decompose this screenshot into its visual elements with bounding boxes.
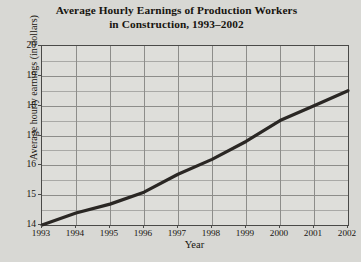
chart-title-line-1: Average Hourly Earnings of Production Wo…: [0, 4, 353, 18]
y-tick-mark: [38, 45, 41, 46]
y-tick-label: 16: [10, 159, 36, 169]
x-tick-mark: [177, 225, 178, 228]
x-tick-mark: [143, 225, 144, 228]
y-tick-label: 18: [10, 100, 36, 110]
x-tick-mark: [245, 225, 246, 228]
x-tick-mark: [313, 225, 314, 228]
y-axis-label: Average hourly earnings (in dollars): [28, 0, 39, 183]
x-tick-mark: [75, 225, 76, 228]
y-tick-label: 19: [10, 70, 36, 80]
data-series-line: [42, 46, 348, 225]
y-tick-mark: [38, 135, 41, 136]
x-tick-mark: [41, 225, 42, 228]
x-tick-mark: [211, 225, 212, 228]
y-tick-label: 17: [10, 130, 36, 140]
x-tick-mark: [347, 225, 348, 228]
y-tick-label: 20: [10, 40, 36, 50]
y-tick-mark: [38, 75, 41, 76]
y-tick-label: 15: [10, 189, 36, 199]
y-tick-mark: [38, 105, 41, 106]
plot-area: [41, 45, 349, 226]
x-tick-label: 2002: [327, 228, 361, 238]
series-polyline: [42, 91, 348, 225]
x-axis-label: Year: [36, 239, 353, 250]
x-tick-mark: [279, 225, 280, 228]
chart-title: Average Hourly Earnings of Production Wo…: [0, 4, 353, 31]
x-tick-mark: [109, 225, 110, 228]
chart-title-line-2: in Construction, 1993–2002: [0, 18, 353, 32]
y-tick-mark: [38, 194, 41, 195]
y-tick-mark: [38, 164, 41, 165]
